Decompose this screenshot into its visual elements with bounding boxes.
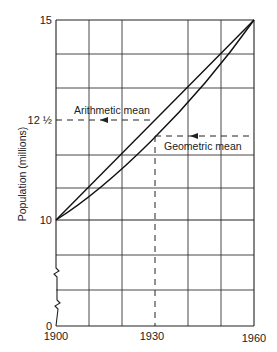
series-lines [56,20,254,220]
plot-frame [54,20,254,326]
x-tick-1900: 1900 [44,330,68,342]
x-tick-1960: 1960 [242,332,266,344]
arrow-left-icon [190,133,198,139]
arrow-left-icon [100,117,108,123]
arithmetic-mean-label: Arithmetic mean [74,104,150,116]
y-tick-12-5: 12 ½ [28,114,52,126]
arithmetic-line [56,20,254,220]
geometric-mean-label: Geometric mean [164,140,242,152]
y-tick-10: 10 [40,214,52,226]
y-tick-15: 15 [40,14,52,26]
x-tick-1930: 1930 [140,330,164,342]
geometric-mean-marker [155,136,254,326]
y-axis-label: Population (millions) [16,127,28,222]
population-chart: 15 12 ½ 10 0 1900 1930 1960 Arithmetic m… [0,0,277,352]
